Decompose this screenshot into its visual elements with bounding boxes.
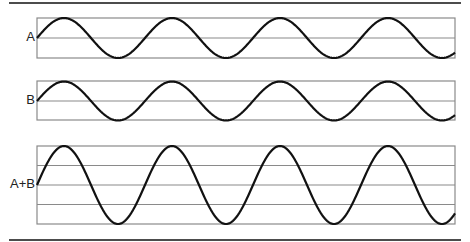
interference-diagram [0, 0, 470, 242]
panel-label-a: A [26, 30, 35, 44]
panel-label-b: B [26, 93, 35, 107]
panel-label-ab: A+B [10, 177, 35, 191]
